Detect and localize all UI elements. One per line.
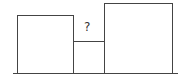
left-square [18,16,74,74]
middle-rectangle [74,42,105,74]
diagram-canvas [0,0,186,76]
right-square [105,4,173,74]
question-mark-label: ? [84,21,90,33]
